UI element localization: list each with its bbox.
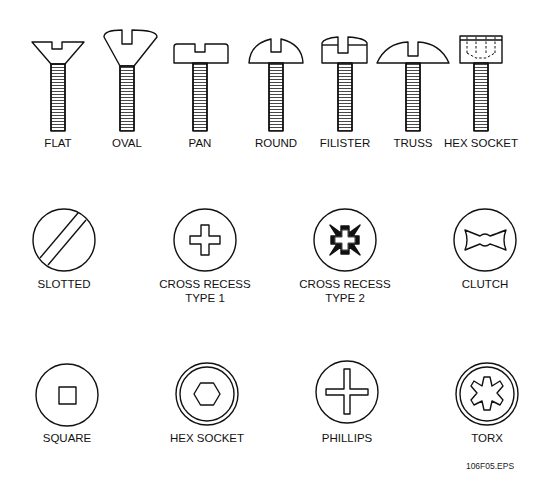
torx-drive-icon xyxy=(456,363,518,425)
flat-head-screw-icon xyxy=(32,42,84,131)
label-round: ROUND xyxy=(255,136,297,150)
label-cross-recess-1: CROSS RECESS TYPE 1 xyxy=(159,277,250,305)
screw-diagram xyxy=(0,0,549,488)
hex-socket-drive-icon xyxy=(176,363,238,425)
label-square: SQUARE xyxy=(43,431,92,445)
label-cross-recess-2-line2: TYPE 2 xyxy=(299,291,390,305)
label-truss: TRUSS xyxy=(394,136,433,150)
label-hex-socket-head: HEX SOCKET xyxy=(444,136,518,150)
phillips-drive-icon xyxy=(316,361,378,423)
label-pan: PAN xyxy=(189,136,212,150)
hex-socket-head-screw-icon xyxy=(460,36,502,131)
slotted-drive-icon xyxy=(33,209,95,271)
label-cross-recess-1-line1: CROSS RECESS xyxy=(159,277,250,291)
square-drive-icon xyxy=(36,364,98,426)
cross-recess-type2-drive-icon xyxy=(314,209,376,271)
label-flat: FLAT xyxy=(44,136,71,150)
cross-recess-type1-drive-icon xyxy=(174,209,236,271)
label-oval: OVAL xyxy=(112,136,142,150)
clutch-drive-icon xyxy=(454,209,516,271)
label-cross-recess-1-line2: TYPE 1 xyxy=(159,291,250,305)
label-slotted: SLOTTED xyxy=(37,277,90,291)
label-hex-socket-drive: HEX SOCKET xyxy=(170,431,244,445)
round-head-screw-icon xyxy=(249,39,303,131)
label-filister: FILISTER xyxy=(320,136,370,150)
figure-caption: 106F05.EPS xyxy=(466,461,514,471)
label-cross-recess-2: CROSS RECESS TYPE 2 xyxy=(299,277,390,305)
label-cross-recess-2-line1: CROSS RECESS xyxy=(299,277,390,291)
truss-head-screw-icon xyxy=(377,42,449,131)
label-phillips: PHILLIPS xyxy=(322,431,373,445)
label-torx: TORX xyxy=(471,431,503,445)
filister-head-screw-icon xyxy=(322,37,367,131)
pan-head-screw-icon xyxy=(174,44,228,131)
label-clutch: CLUTCH xyxy=(462,277,509,291)
oval-head-screw-icon xyxy=(104,30,157,131)
